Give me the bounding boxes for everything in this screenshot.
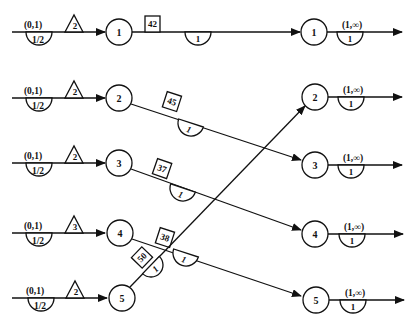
gain-label: 1: [351, 302, 356, 312]
gain-label: 1: [349, 99, 354, 109]
node-label: 1: [117, 27, 122, 38]
output-row-5: 5 1 (1,∞): [303, 287, 404, 313]
gain-label: 1: [348, 34, 353, 44]
node-label: 3: [313, 160, 318, 171]
node-label: 5: [314, 295, 319, 306]
gain-label: 1: [196, 34, 201, 44]
input-row-3: 1/2 (0,1) 2 3: [12, 146, 132, 176]
node-label: 2: [313, 92, 318, 103]
node-label: 2: [117, 93, 122, 104]
middle-arc-1-1: 1 42: [132, 16, 300, 45]
cost-label: 42: [148, 19, 158, 29]
gain-label: 1/2: [32, 166, 44, 176]
gain-label: 1: [349, 167, 354, 177]
input-row-5: 1/2 (0,1) 2 5: [12, 281, 135, 311]
gain-label: 1/2: [34, 301, 46, 311]
middle-arc-2-3: 1 45: [131, 92, 301, 160]
triangle-label: 2: [74, 287, 79, 297]
gain-label: 1/2: [32, 236, 44, 246]
arc-label: (0,1): [24, 151, 42, 162]
arc-label: (0,1): [24, 86, 42, 97]
arc-label: (0,1): [26, 286, 44, 297]
output-row-2: 2 1 (1,∞): [302, 84, 402, 110]
node-label: 3: [117, 158, 122, 169]
triangle-label: 2: [73, 152, 78, 162]
arc-label: (1,∞): [342, 20, 362, 31]
arc-label: (0,1): [24, 20, 42, 31]
node-label: 5: [120, 293, 125, 304]
arc-label: (1,∞): [343, 85, 363, 96]
input-row-2: 1/2 (0,1) 2 2: [12, 81, 132, 111]
arc-label: (1,∞): [343, 153, 363, 164]
output-row-1: 1 1 (1,∞): [301, 19, 402, 45]
node-label: 4: [313, 229, 318, 240]
arc-label: (1,∞): [345, 288, 365, 299]
input-row-1: 1/2 (0,1) 2 1: [12, 15, 132, 45]
triangle-label: 3: [73, 222, 78, 232]
triangle-label: 2: [73, 87, 78, 97]
arc-label: (1,∞): [344, 222, 364, 233]
middle-arc-3-4: 1 37: [131, 159, 301, 230]
output-row-4: 4 1 (1,∞): [302, 221, 403, 247]
triangle-label: 2: [73, 21, 78, 31]
output-row-3: 3 1 (1,∞): [302, 152, 402, 178]
gain-label: 1: [350, 236, 355, 246]
flow-network-diagram: 1/2 (0,1) 2 1 1/2 (0,1) 2 2 1/2 (0,1) 2 …: [0, 0, 414, 326]
node-label: 1: [312, 27, 317, 38]
gain-label: 1/2: [32, 101, 44, 111]
node-label: 4: [118, 228, 123, 239]
input-row-4: 1/2 (0,1) 3 4: [12, 216, 133, 246]
gain-label: 1/2: [32, 35, 44, 45]
arc-label: (0,1): [24, 221, 42, 232]
